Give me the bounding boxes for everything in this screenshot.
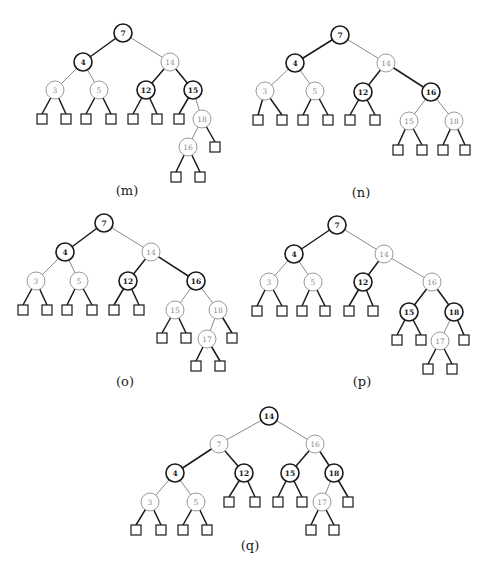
nil-leaf-square-icon (297, 306, 307, 316)
nil-leaf-square-icon (343, 497, 353, 507)
node-label: 4 (292, 59, 297, 68)
tree-node-14: 14 (377, 54, 395, 72)
nil-leaf-square-icon (157, 333, 167, 343)
nil-leaf (134, 305, 144, 315)
tree-node-16: 16 (306, 435, 324, 453)
nil-leaf-square-icon (42, 305, 52, 315)
tree-node-7: 7 (114, 24, 132, 42)
nil-leaf-square-icon (370, 115, 380, 125)
node-label: 7 (337, 31, 342, 40)
nil-leaf (181, 333, 191, 343)
node-label: 7 (334, 221, 339, 230)
node-label: 3 (263, 87, 268, 96)
tree-node-16: 16 (179, 138, 197, 156)
nil-leaf (128, 114, 138, 124)
tree-node-16: 16 (422, 83, 440, 101)
nil-leaf-square-icon (393, 145, 403, 155)
tree-node-3: 3 (260, 273, 278, 291)
node-label: 16 (426, 88, 436, 97)
nil-leaf-square-icon (227, 333, 237, 343)
tree-node-15: 15 (400, 112, 418, 130)
nil-leaf (392, 335, 402, 345)
tree-node-3: 3 (27, 272, 45, 290)
node-label: 12 (358, 278, 368, 287)
nil-leaf (423, 364, 433, 374)
node-label: 5 (77, 277, 82, 286)
nodes: 74143512151816 (37, 24, 220, 182)
nil-leaf-square-icon (171, 172, 181, 182)
nil-leaf (368, 306, 378, 316)
tree-node-14: 14 (375, 245, 393, 263)
nil-leaf-square-icon (62, 305, 72, 315)
node-label: 7 (120, 29, 125, 38)
node-label: 12 (141, 86, 151, 95)
nil-leaf-square-icon (252, 306, 262, 316)
nil-leaf (459, 335, 469, 345)
nil-leaf (18, 305, 28, 315)
node-label: 15 (170, 306, 180, 315)
nil-leaf-square-icon (128, 114, 138, 124)
nil-leaf-square-icon (215, 361, 225, 371)
node-label: 3 (148, 498, 153, 507)
node-label: 18 (213, 306, 223, 315)
tree-node-14: 14 (260, 407, 278, 425)
nil-leaf (417, 145, 427, 155)
nil-leaf (329, 525, 339, 535)
node-label: 14 (381, 59, 391, 68)
nil-leaf-square-icon (134, 305, 144, 315)
nil-leaf (297, 497, 307, 507)
tree-node-12: 12 (137, 81, 155, 99)
nil-leaf (174, 114, 184, 124)
nil-leaf-square-icon (195, 172, 205, 182)
nil-leaf-square-icon (87, 305, 97, 315)
tree-node-16: 16 (423, 273, 441, 291)
nil-leaf-square-icon (306, 525, 316, 535)
tree-node-7: 7 (95, 214, 113, 232)
nil-leaf-square-icon (345, 115, 355, 125)
tree-node-5: 5 (90, 81, 108, 99)
nil-leaf-square-icon (61, 114, 71, 124)
node-label: 4 (62, 248, 67, 257)
nil-leaf-square-icon (202, 525, 212, 535)
nil-leaf-square-icon (18, 305, 28, 315)
node-label: 3 (267, 278, 272, 287)
nil-leaf (178, 525, 188, 535)
panel-caption: (p) (353, 374, 371, 389)
tree-node-12: 12 (235, 464, 253, 482)
nil-leaf-square-icon (81, 114, 91, 124)
tree-node-17: 17 (313, 493, 331, 511)
node-label: 17 (317, 498, 327, 507)
node-label: 15 (404, 117, 414, 126)
node-label: 5 (311, 278, 316, 287)
nil-leaf (370, 115, 380, 125)
tree-panel-q: 1471641215183517(q) (131, 407, 353, 553)
nil-leaf (277, 115, 287, 125)
nil-leaf (306, 525, 316, 535)
tree-node-3: 3 (46, 81, 64, 99)
nil-leaf (252, 306, 262, 316)
nil-leaf-square-icon (273, 497, 283, 507)
node-label: 16 (191, 277, 201, 286)
nil-leaf-square-icon (392, 335, 402, 345)
node-label: 7 (217, 440, 222, 449)
node-label: 12 (123, 277, 133, 286)
node-label: 18 (449, 308, 459, 317)
nil-leaf-square-icon (156, 525, 166, 535)
nil-leaf-square-icon (106, 114, 116, 124)
nil-leaf (447, 364, 457, 374)
tree-node-18: 18 (209, 301, 227, 319)
tree-node-18: 18 (445, 112, 463, 130)
panel-caption: (q) (241, 538, 259, 553)
nil-leaf-square-icon (368, 306, 378, 316)
nil-leaf (191, 361, 201, 371)
nil-leaf (460, 145, 470, 155)
nil-leaf (298, 115, 308, 125)
nil-leaf (131, 525, 141, 535)
nil-leaf (343, 497, 353, 507)
node-label: 5 (313, 87, 318, 96)
node-label: 4 (291, 250, 296, 259)
node-label: 15 (404, 308, 414, 317)
nil-leaf (277, 306, 287, 316)
node-label: 14 (165, 58, 175, 67)
nil-leaf-square-icon (277, 306, 287, 316)
